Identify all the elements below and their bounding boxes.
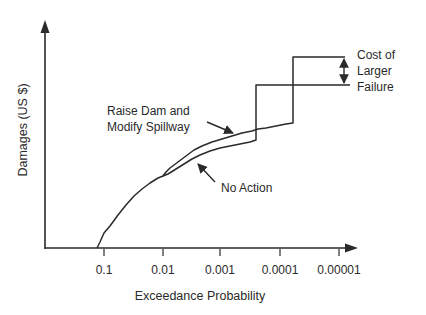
cost-label-line1: Cost of bbox=[357, 48, 396, 62]
exceedance-damage-chart: 0.1 0.01 0.001 0.0001 0.00001 Exceedance… bbox=[0, 0, 426, 315]
x-tick-label: 0.0001 bbox=[262, 263, 299, 277]
raise-dam-label-line2: Modify Spillway bbox=[107, 120, 190, 134]
y-axis-title: Damages (US $) bbox=[16, 83, 30, 176]
cost-label-line3: Failure bbox=[357, 80, 394, 94]
x-tick-label: 0.001 bbox=[205, 263, 235, 277]
x-axis-title: Exceedance Probability bbox=[135, 289, 266, 303]
series-no-action-line bbox=[163, 85, 350, 176]
x-axis-arrow-icon bbox=[345, 244, 358, 253]
y-axis-arrow-icon bbox=[41, 20, 50, 33]
raise-dam-pointer-arrow-icon bbox=[207, 122, 233, 133]
x-ticks bbox=[104, 249, 339, 256]
cost-label-line2: Larger bbox=[357, 64, 392, 78]
no-action-pointer-arrow-icon bbox=[198, 164, 215, 182]
raise-dam-label-line1: Raise Dam and bbox=[107, 104, 190, 118]
x-tick-label: 0.01 bbox=[151, 263, 175, 277]
x-tick-label: 0.00001 bbox=[317, 263, 361, 277]
x-tick-label: 0.1 bbox=[96, 263, 113, 277]
no-action-label: No Action bbox=[221, 181, 272, 195]
